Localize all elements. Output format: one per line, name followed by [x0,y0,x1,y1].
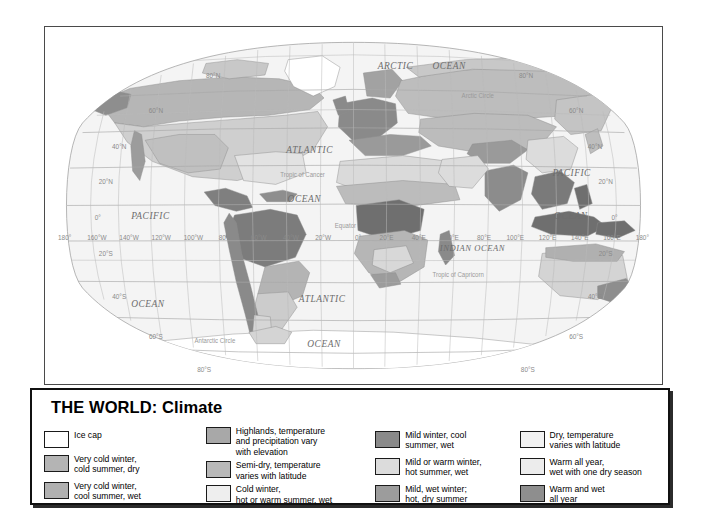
latitude-label: 80°S [521,366,536,373]
ocean-label: OCEAN [307,337,340,348]
legend-label: Ice cap [74,430,102,440]
legend-label: Semi-dry, temperature varies with latitu… [236,460,321,481]
longitude-label: 140°E [571,234,589,241]
longitude-label: 20°E [380,234,395,241]
legend-swatch [44,431,69,448]
climate-legend-panel: THE WORLD: Climate Ice capVery cold wint… [30,388,670,505]
latitude-label: 60°S [149,333,164,340]
legend-title: THE WORLD: Climate [51,398,222,417]
legend-columns: Ice capVery cold winter, cold summer, dr… [44,426,664,499]
reference-line-label: Tropic of Capricorn [432,270,484,278]
legend-column-4: Dry, temperature varies with latitudeWar… [520,426,664,499]
longitude-label: 80°E [477,234,492,241]
legend-swatch [375,485,400,502]
longitude-label: 100°E [507,234,525,241]
ocean-label: PACIFIC [130,210,169,221]
latitude-label: 60°N [149,107,164,114]
latitude-label: 20°S [99,250,114,257]
legend-label: Mild or warm winter, hot summer, wet [405,457,481,478]
latitude-label: 40°N [588,143,603,150]
legend-entry[interactable]: Semi-dry, temperature varies with latitu… [206,460,375,481]
longitude-label: 120°W [152,234,172,241]
legend-label: Warm all year, wet with one dry season [550,457,642,478]
ocean-label: ATLANTIC [298,293,346,304]
reference-line-label: Equator [335,221,356,229]
reference-line-label: Tropic of Cancer [280,171,325,179]
legend-entry[interactable]: Very cold winter, cold summer, dry [44,454,206,475]
longitude-label: 40°E [412,234,427,241]
legend-label: Mild winter, cool summer, wet [405,430,466,451]
longitude-label: 80°W [219,234,235,241]
world-map-panel: 80°N60°N40°N20°N0°20°S40°S60°S80°S 80°N6… [44,26,663,385]
legend-swatch [520,458,545,475]
longitude-label: 160°E [603,234,621,241]
legend-column-1: Ice capVery cold winter, cold summer, dr… [44,426,206,499]
latitude-label: 40°S [112,292,127,299]
latitude-label: 20°S [599,250,614,257]
longitude-label: 120°E [539,234,557,241]
legend-column-3: Mild winter, cool summer, wetMild or war… [375,426,519,499]
legend-entry[interactable]: Warm and wet all year [520,484,664,505]
longitude-label: 20°W [315,234,331,241]
latitude-label: 80°N [519,72,534,79]
longitude-label: 100°W [184,234,204,241]
legend-entry[interactable]: Cold winter, hot or warm summer, wet [206,484,375,505]
longitude-label: 0° [355,234,361,241]
longitude-label: 60°W [251,234,267,241]
legend-label: Warm and wet all year [550,484,605,505]
longitude-label: 160°W [87,234,107,241]
latitude-label: 60°S [569,333,584,340]
legend-entry[interactable]: Mild winter, cool summer, wet [375,430,519,451]
world-map-graphic: 80°N60°N40°N20°N0°20°S40°S60°S80°S 80°N6… [45,27,662,384]
legend-entry[interactable]: Highlands, temperature and precipitation… [206,426,375,457]
legend-label: Highlands, temperature and precipitation… [236,426,325,457]
legend-entry[interactable]: Mild, wet winter; hot, dry summer [375,484,519,505]
ocean-label: OCEAN [288,192,321,203]
ocean-label: ARCTIC [377,60,413,71]
longitude-label: 140°W [119,234,139,241]
legend-entry[interactable]: Warm all year, wet with one dry season [520,457,664,478]
legend-swatch [206,485,231,502]
latitude-label: 20°N [598,178,613,185]
legend-label: Very cold winter, cool summer, wet [74,481,141,502]
legend-column-2: Highlands, temperature and precipitation… [206,426,375,499]
latitude-label: 40°S [588,292,603,299]
ocean-label: ATLANTIC [285,143,333,154]
latitude-label: 40°N [112,143,127,150]
legend-swatch [375,458,400,475]
legend-label: Cold winter, hot or warm summer, wet [236,484,332,505]
legend-entry[interactable]: Ice cap [44,430,206,448]
ocean-label: PACIFIC [551,166,590,177]
reference-line-label: Arctic Circle [462,92,495,99]
legend-swatch [206,427,231,444]
latitude-label: 80°S [197,366,212,373]
ocean-label: INDIAN OCEAN [439,242,506,252]
latitude-label: 0° [95,214,101,221]
legend-swatch [520,431,545,448]
legend-swatch [44,482,69,499]
legend-swatch [44,455,69,472]
reference-line-label: Antarctic Circle [194,337,235,344]
longitude-label: 40°W [283,234,299,241]
legend-label: Very cold winter, cold summer, dry [74,454,139,475]
legend-swatch [520,485,545,502]
legend-entry[interactable]: Very cold winter, cool summer, wet [44,481,206,502]
legend-swatch [375,431,400,448]
legend-entry[interactable]: Dry, temperature varies with latitude [520,430,664,451]
legend-label: Mild, wet winter; hot, dry summer [405,484,467,505]
latitude-label: 0° [612,214,618,221]
legend-swatch [206,461,231,478]
latitude-label: 20°N [99,178,114,185]
ocean-label: OCEAN [432,60,465,71]
ocean-label: OCEAN [554,210,587,221]
longitude-label: 180° [636,234,650,241]
legend-entry[interactable]: Mild or warm winter, hot summer, wet [375,457,519,478]
ocean-label: OCEAN [131,298,164,309]
legend-label: Dry, temperature varies with latitude [550,430,621,451]
latitude-label: 80°N [206,72,221,79]
longitude-label: 180° [58,234,72,241]
longitude-label: 60°E [445,234,460,241]
latitude-label: 60°N [569,107,584,114]
